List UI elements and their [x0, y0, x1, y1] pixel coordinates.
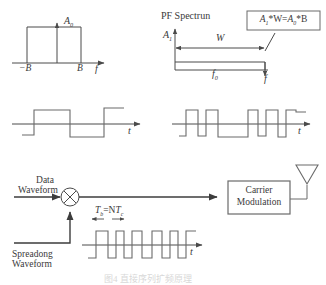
- bandwidth-W-label: W: [216, 33, 224, 44]
- carrier-modulation-label-line1: Carrier: [228, 185, 290, 196]
- chip-sequence-waveform: [172, 110, 310, 137]
- baseband-spectrum-plot: [12, 23, 104, 63]
- antenna-icon: [296, 165, 318, 184]
- center-frequency-label: f0: [212, 69, 218, 82]
- data-waveform-trace: [22, 108, 124, 137]
- data-waveform-time-label: t: [128, 126, 131, 137]
- chip-timing-label: Tb=NTc: [95, 206, 123, 217]
- spectrum-rectangle: [27, 27, 81, 63]
- spread-output-time-label: t: [190, 247, 193, 258]
- pf-spectrum-title: PF Spectrun: [161, 11, 210, 22]
- baseband-frequency-axis-label: f: [95, 64, 98, 75]
- formula-callout-text: A1*W=A0*B: [247, 14, 320, 26]
- spreading-input-arrow: [14, 212, 70, 243]
- baseband-right-tick-label: B: [77, 64, 83, 74]
- figure-caption: 图4 直接序列扩频原理: [104, 272, 192, 285]
- spread-frequency-axis-label: f: [264, 74, 267, 85]
- spreading-waveform-input-label-line2: Waveform: [12, 260, 52, 270]
- data-waveform-input-label-line2: Waveform: [10, 186, 66, 196]
- carrier-modulation-label-line2: Modulation: [228, 197, 290, 208]
- callout-leader-line: [265, 33, 275, 51]
- spread-output-waveform: [82, 219, 202, 258]
- baseband-left-tick-label: −B: [19, 64, 31, 74]
- chip-waveform-time-label: t: [298, 126, 301, 137]
- data-square-waveform: [12, 108, 140, 137]
- baseband-amplitude-label: A0: [64, 16, 73, 29]
- antenna-feed-line: [290, 185, 307, 199]
- spread-amplitude-label: A1: [163, 30, 172, 43]
